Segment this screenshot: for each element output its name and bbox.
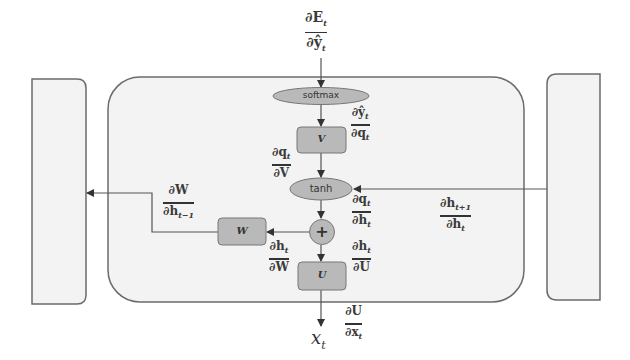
input-x-label: xt <box>311 327 326 352</box>
previous-cell-box <box>32 79 86 304</box>
u-label: U <box>298 269 346 280</box>
grad-dh-dU: ∂ht ∂U <box>352 240 371 278</box>
v-label: V <box>297 133 346 144</box>
grad-dq-dV: ∂qt ∂V <box>272 146 291 184</box>
grad-dyhat-dq: ∂ŷt ∂qt <box>351 106 370 144</box>
next-cell-box <box>547 74 600 300</box>
grad-dE-dyhat: ∂Et ∂ŷt <box>305 9 327 56</box>
softmax-label: softmax <box>281 90 361 100</box>
grad-dW-dhprev: ∂W ∂ht−1 <box>163 184 194 222</box>
plus-label: + <box>309 222 335 241</box>
tanh-label: tanh <box>290 183 352 194</box>
w-label: W <box>218 225 266 236</box>
grad-dU-dx: ∂U ∂xt <box>345 305 362 343</box>
grad-dhnext-dh: ∂ht+1 ∂ht <box>440 197 471 235</box>
grad-dh-dW: ∂ht ∂W <box>269 240 289 278</box>
grad-dq-dh: ∂qt ∂ht <box>352 193 371 231</box>
